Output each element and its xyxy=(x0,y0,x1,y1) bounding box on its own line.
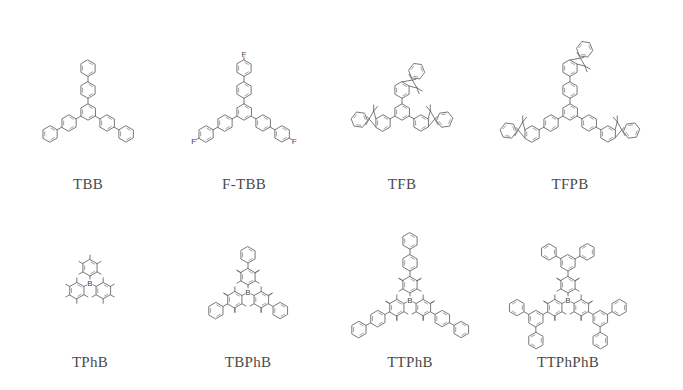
benzene-ring xyxy=(454,321,468,337)
benzene-ring xyxy=(275,126,289,142)
benzene-ring xyxy=(376,115,390,131)
boron-atom: B xyxy=(87,279,92,288)
benzene-ring xyxy=(62,115,76,131)
fluorine-atom: F xyxy=(191,137,196,146)
benzene-ring xyxy=(241,269,255,285)
benzene-ring xyxy=(96,282,110,298)
boron-atom: B xyxy=(565,296,570,305)
benzene-ring xyxy=(544,115,558,131)
benzene-ring xyxy=(593,332,607,348)
benzene-ring xyxy=(237,82,251,98)
label-tphb: TPhB xyxy=(72,354,108,371)
benzene-ring xyxy=(548,299,562,315)
benzene-ring xyxy=(416,299,430,315)
benzene-ring xyxy=(371,310,385,326)
boron-atom: B xyxy=(407,296,412,305)
benzene-ring xyxy=(529,332,543,348)
benzene-ring xyxy=(390,299,404,315)
benzene-ring xyxy=(529,310,543,326)
label-ttphphb: TTPhPhB xyxy=(537,354,599,371)
benzene-ring xyxy=(70,282,84,298)
boron-atom: B xyxy=(245,288,250,297)
benzene-ring xyxy=(237,60,251,76)
molecule-tbphb: B xyxy=(209,247,287,319)
benzene-ring xyxy=(601,126,615,142)
benzene-ring xyxy=(563,60,577,76)
benzene-ring xyxy=(435,310,449,326)
benzene-ring xyxy=(81,60,95,76)
benzene-ring xyxy=(403,255,417,271)
label-f-tbb: F-TBB xyxy=(222,176,266,193)
molecule-tphb: B xyxy=(66,255,114,303)
benzene-ring xyxy=(574,299,588,315)
benzene-ring xyxy=(199,126,213,142)
benzene-ring xyxy=(414,115,428,131)
molecule-ttphphb: B xyxy=(510,244,626,349)
benzene-ring xyxy=(228,291,242,307)
benzene-ring xyxy=(395,82,409,98)
benzene-ring xyxy=(254,291,268,307)
label-tbphb: TBPhB xyxy=(225,354,272,371)
molecule-tfpb xyxy=(500,42,639,142)
benzene-ring xyxy=(395,104,409,120)
benzene-ring xyxy=(256,115,270,131)
benzene-ring xyxy=(403,233,417,249)
benzene-ring xyxy=(561,255,575,271)
benzene-ring xyxy=(81,104,95,120)
molecule-f-tbb: FFF xyxy=(191,50,296,146)
label-tfb: TFB xyxy=(388,176,416,193)
benzene-ring xyxy=(209,302,223,318)
molecule-ttphb: B xyxy=(352,233,468,338)
benzene-ring xyxy=(582,115,596,131)
label-tfpb: TFPB xyxy=(551,176,588,193)
benzene-ring xyxy=(352,321,366,337)
fluorine-atom: F xyxy=(292,137,297,146)
benzene-ring xyxy=(237,104,251,120)
benzene-ring xyxy=(273,302,287,318)
benzene-ring xyxy=(100,115,114,131)
benzene-ring xyxy=(218,115,232,131)
benzene-ring xyxy=(580,244,594,260)
benzene-ring xyxy=(403,277,417,293)
benzene-ring xyxy=(83,260,97,276)
benzene-ring xyxy=(81,82,95,98)
benzene-ring xyxy=(43,126,57,142)
molecule-tfb xyxy=(351,64,452,131)
benzene-ring xyxy=(510,299,524,315)
benzene-ring xyxy=(119,126,133,142)
benzene-ring xyxy=(563,82,577,98)
benzene-ring xyxy=(542,244,556,260)
label-ttphb: TTPhB xyxy=(387,354,433,371)
benzene-ring xyxy=(241,247,255,263)
benzene-ring xyxy=(563,104,577,120)
molecule-figure: FFFBBBB xyxy=(0,0,683,390)
molecule-tbb xyxy=(43,60,133,142)
fluorine-atom: F xyxy=(242,50,247,59)
label-tbb: TBB xyxy=(73,176,103,193)
benzene-ring xyxy=(525,126,539,142)
benzene-ring xyxy=(612,299,626,315)
benzene-ring xyxy=(593,310,607,326)
benzene-ring xyxy=(561,277,575,293)
